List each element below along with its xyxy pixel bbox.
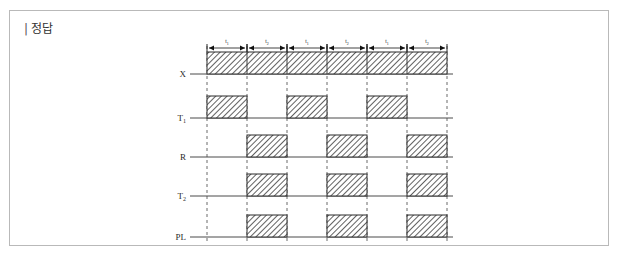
pulse-block bbox=[327, 215, 367, 237]
interval-label: t1 bbox=[225, 38, 229, 46]
pulse-block bbox=[247, 215, 287, 237]
interval-label: t2 bbox=[265, 38, 269, 46]
arrow-head-right-icon bbox=[360, 46, 365, 51]
interval-measure: t1 bbox=[287, 38, 327, 52]
page-root: |정답 t1t2t1t2t1t2XT1RT2PL bbox=[0, 0, 625, 262]
pulse-block bbox=[407, 174, 447, 196]
interval-measure: t2 bbox=[247, 38, 287, 52]
pulse-block bbox=[367, 96, 407, 118]
row-label-t2: T2 bbox=[178, 191, 187, 202]
interval-measure: t2 bbox=[327, 38, 367, 52]
arrow-head-left-icon bbox=[289, 46, 294, 51]
arrow-head-left-icon bbox=[329, 46, 334, 51]
arrow-head-left-icon bbox=[249, 46, 254, 51]
arrow-head-right-icon bbox=[280, 46, 285, 51]
diagram-content: t1t2t1t2t1t2XT1RT2PL bbox=[175, 38, 453, 243]
arrow-head-left-icon bbox=[209, 46, 214, 51]
interval-measure: t1 bbox=[367, 38, 407, 52]
arrow-head-right-icon bbox=[320, 46, 325, 51]
arrow-head-left-icon bbox=[409, 46, 414, 51]
interval-measure: t1 bbox=[207, 38, 247, 52]
pulse-block bbox=[327, 135, 367, 157]
interval-label: t1 bbox=[385, 38, 389, 46]
interval-measure: t2 bbox=[407, 38, 447, 52]
arrow-head-right-icon bbox=[400, 46, 405, 51]
interval-label: t2 bbox=[425, 38, 429, 46]
row-label-pl: PL bbox=[175, 232, 186, 242]
timing-diagram: t1t2t1t2t1t2XT1RT2PL bbox=[0, 0, 625, 262]
interval-label: t1 bbox=[305, 38, 309, 46]
arrow-head-right-icon bbox=[240, 46, 245, 51]
pulse-block bbox=[287, 96, 327, 118]
pulse-block bbox=[327, 174, 367, 196]
arrow-head-left-icon bbox=[369, 46, 374, 51]
interval-label: t2 bbox=[345, 38, 349, 46]
pulse-block bbox=[207, 96, 247, 118]
pulse-block bbox=[247, 174, 287, 196]
row-label-x: X bbox=[180, 69, 187, 79]
pulse-block bbox=[407, 135, 447, 157]
arrow-head-right-icon bbox=[440, 46, 445, 51]
row-label-t1: T1 bbox=[178, 113, 187, 124]
row-label-r: R bbox=[180, 152, 186, 162]
pulse-block bbox=[247, 135, 287, 157]
pulse-block bbox=[407, 215, 447, 237]
